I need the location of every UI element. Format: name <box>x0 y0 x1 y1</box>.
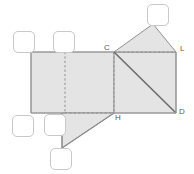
answer-box-mid-lower[interactable] <box>44 114 66 136</box>
vertex-label-h: H <box>115 114 121 122</box>
answer-box-top-right[interactable] <box>147 4 169 26</box>
apex-triangle-shape <box>114 24 176 52</box>
main-rectangle-shape <box>31 52 114 113</box>
vertex-label-d: D <box>179 108 185 116</box>
answer-box-left-upper[interactable] <box>13 31 35 53</box>
geometry-figure-svg <box>0 0 194 174</box>
vertex-label-c: C <box>104 44 110 52</box>
geometry-figure-container: C L H D <box>0 0 194 174</box>
answer-box-bottom[interactable] <box>50 148 72 170</box>
answer-box-mid-upper[interactable] <box>53 31 75 53</box>
vertex-label-l: L <box>180 45 184 53</box>
answer-box-left-lower[interactable] <box>12 115 34 137</box>
